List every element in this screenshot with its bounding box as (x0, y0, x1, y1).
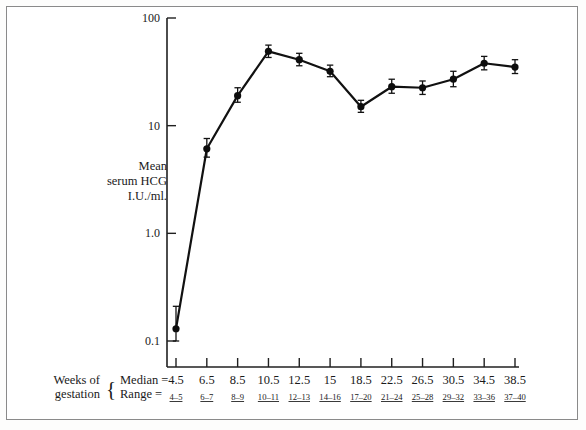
figure-frame: Mean serum HCG I.U./ml. 100101.00.1 4.56… (6, 6, 578, 420)
x-tick-label-range: 6–7 (200, 392, 214, 402)
x-tick-label-median: 12.5 (288, 373, 310, 387)
data-point (296, 56, 303, 63)
x-axis-caption: Weeks ofgestation{Median =Range = (53, 373, 168, 401)
data-point (357, 103, 364, 110)
x-tick-label-range: 29–32 (443, 392, 464, 402)
data-point (265, 48, 272, 55)
y-tick-label: 10 (148, 119, 160, 133)
x-tick-label-median: 10.5 (258, 373, 280, 387)
x-tick-label-range: 4–5 (170, 392, 183, 402)
x-tick-label-range: 8–9 (231, 392, 244, 402)
brace-glyph: { (106, 377, 116, 401)
data-point (172, 325, 179, 332)
x-tick-label-range: 10–11 (258, 392, 279, 402)
x-axis-range-labels: 4–56–78–910–1112–1314–1617–2021–2425–282… (170, 392, 526, 402)
y-tick-label: 1.0 (145, 226, 160, 240)
x-tick-label-median: 8.5 (230, 373, 246, 387)
x-tick-label-median: 30.5 (442, 373, 464, 387)
y-tick-label: 100 (142, 11, 160, 25)
x-tick-label-range: 33–36 (473, 392, 495, 402)
x-tick-label-median: 6.5 (199, 373, 215, 387)
data-point (511, 63, 518, 70)
x-tick-label-median: 15 (324, 373, 337, 387)
x-tick-label-range: 37–40 (504, 392, 525, 402)
x-tick-label-range: 21–24 (381, 392, 403, 402)
x-tick-label-range: 17–20 (350, 392, 371, 402)
row-label: Range = (120, 387, 162, 401)
data-point (450, 76, 457, 83)
data-point (326, 68, 333, 75)
x-tick-label-range: 14–16 (319, 392, 341, 402)
figure-page: Mean serum HCG I.U./ml. 100101.00.1 4.56… (0, 0, 586, 430)
data-point (388, 83, 395, 90)
x-tick-label-median: 18.5 (350, 373, 372, 387)
data-point (481, 60, 488, 67)
x-tick-label-median: 22.5 (381, 373, 403, 387)
x-axis-tick-labels: 4.56.58.510.512.51518.522.526.530.534.53… (168, 373, 526, 387)
x-tick-label-median: 26.5 (412, 373, 434, 387)
x-axis (167, 358, 519, 367)
data-point (419, 84, 426, 91)
data-series-hcg (172, 45, 518, 341)
x-tick-label-range: 25–28 (412, 392, 433, 402)
x-axis-caption-line: Weeks of (53, 373, 100, 387)
chart-canvas: 100101.00.1 4.56.58.510.512.51518.522.52… (7, 7, 579, 421)
row-label: Median = (120, 373, 168, 387)
x-axis-caption-line: gestation (55, 387, 101, 401)
x-tick-label-range: 12–13 (289, 392, 310, 402)
x-tick-label-median: 4.5 (168, 373, 184, 387)
x-tick-label-median: 38.5 (504, 373, 526, 387)
x-tick-label-median: 34.5 (473, 373, 495, 387)
y-axis: 100101.00.1 (142, 11, 176, 367)
data-point (203, 145, 210, 152)
data-point (234, 92, 241, 99)
y-tick-label: 0.1 (145, 334, 160, 348)
